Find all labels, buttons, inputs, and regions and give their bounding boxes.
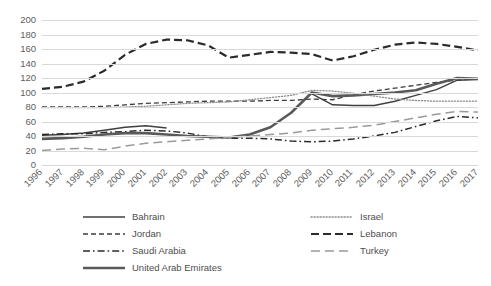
legend-swatch-icon xyxy=(82,245,126,257)
legend-label: Bahrain xyxy=(132,211,165,223)
x-axis-tick-label: 1997 xyxy=(43,167,65,189)
chart-legend: BahrainJordanSaudi ArabiaUnited Arab Emi… xyxy=(0,210,491,282)
legend-swatch-icon xyxy=(82,228,126,240)
x-axis-tick-label: 2009 xyxy=(292,167,314,189)
gridline xyxy=(42,165,478,166)
line-chart: 200180160140120100806040200 199619971998… xyxy=(0,0,491,286)
y-axis-tick-label: 180 xyxy=(20,30,36,40)
legend-item-bahrain[interactable]: Bahrain xyxy=(82,210,165,224)
y-axis-tick-label: 40 xyxy=(25,131,36,141)
plot-area xyxy=(42,20,478,165)
gridline xyxy=(42,35,478,36)
legend-item-lebanon[interactable]: Lebanon xyxy=(310,227,397,241)
legend-label: United Arab Emirates xyxy=(132,262,222,274)
gridline xyxy=(42,151,478,152)
gridline xyxy=(42,93,478,94)
x-axis-tick-label: 2007 xyxy=(251,167,273,189)
y-axis-tick-label: 200 xyxy=(20,15,36,25)
legend-item-jordan[interactable]: Jordan xyxy=(82,227,161,241)
y-axis-tick-label: 20 xyxy=(25,146,36,156)
y-axis-tick-label: 80 xyxy=(25,102,36,112)
y-axis-tick-label: 140 xyxy=(20,59,36,69)
gridline xyxy=(42,78,478,79)
x-axis-tick-label: 2003 xyxy=(168,167,190,189)
gridline xyxy=(42,122,478,123)
legend-swatch-icon xyxy=(82,211,126,223)
legend-swatch-icon xyxy=(310,245,354,257)
y-axis-tick-label: 60 xyxy=(25,117,36,127)
x-axis-tick-label: 2008 xyxy=(271,167,293,189)
gridline xyxy=(42,107,478,108)
gridline xyxy=(42,49,478,50)
legend-label: Saudi Arabia xyxy=(132,245,186,257)
legend-item-saudi-arabia[interactable]: Saudi Arabia xyxy=(82,244,186,258)
x-axis-tick-label: 2015 xyxy=(417,167,439,189)
gridline xyxy=(42,20,478,21)
legend-swatch-icon xyxy=(310,228,354,240)
x-axis-tick-label: 2012 xyxy=(354,167,376,189)
legend-item-united-arab-emirates[interactable]: United Arab Emirates xyxy=(82,261,222,275)
x-axis-tick-label: 1999 xyxy=(84,167,106,189)
x-axis-tick-label: 2017 xyxy=(458,167,480,189)
x-axis-tick-label: 2004 xyxy=(188,167,210,189)
x-axis-tick-label: 2011 xyxy=(333,167,354,188)
y-axis-tick-label: 160 xyxy=(20,44,36,54)
x-axis-tick-label: 2005 xyxy=(209,167,231,189)
legend-item-turkey[interactable]: Turkey xyxy=(310,244,389,258)
x-axis-tick-label: 2013 xyxy=(375,167,397,189)
x-axis-tick-label: 2016 xyxy=(437,167,459,189)
x-axis-tick-label: 2000 xyxy=(105,167,127,189)
legend-label: Jordan xyxy=(132,228,161,240)
legend-swatch-icon xyxy=(310,211,354,223)
x-axis-tick-label: 2010 xyxy=(313,167,335,189)
x-axis-tick-label: 2001 xyxy=(126,167,148,189)
legend-item-israel[interactable]: Israel xyxy=(310,210,383,224)
legend-label: Turkey xyxy=(360,245,389,257)
x-axis-tick-label: 2002 xyxy=(147,167,169,189)
x-axis-tick-label: 1998 xyxy=(64,167,86,189)
y-axis-tick-label: 100 xyxy=(20,88,36,98)
x-axis: 1996199719981999200020012002200320042005… xyxy=(42,167,478,207)
gridline xyxy=(42,64,478,65)
x-axis-tick-label: 2014 xyxy=(396,167,418,189)
gridline xyxy=(42,136,478,137)
y-axis-tick-label: 120 xyxy=(20,73,36,83)
y-axis: 200180160140120100806040200 xyxy=(0,0,40,186)
legend-label: Lebanon xyxy=(360,228,397,240)
x-axis-tick-label: 2006 xyxy=(230,167,252,189)
legend-swatch-icon xyxy=(82,262,126,274)
legend-label: Israel xyxy=(360,211,383,223)
